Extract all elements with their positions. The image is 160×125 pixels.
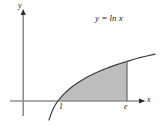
shaded-area-under-curve bbox=[58, 61, 127, 101]
x-tick-label-e: e bbox=[124, 103, 128, 111]
x-tick-label-one: 1 bbox=[59, 103, 63, 111]
curve-equation-label: y = ln x bbox=[95, 14, 123, 23]
graph-canvas bbox=[0, 0, 160, 125]
x-axis-arrowhead-icon bbox=[139, 98, 146, 103]
y-axis-label: y bbox=[18, 2, 22, 10]
x-axis-label: x bbox=[147, 96, 151, 104]
math-figure-ln-x: y x y = ln x 1 e bbox=[0, 0, 160, 125]
